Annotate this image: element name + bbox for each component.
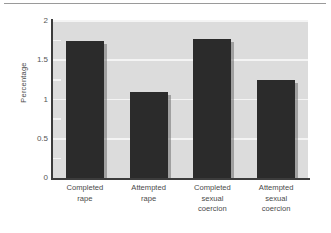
x-axis-label-line: rape xyxy=(117,194,181,205)
y-tick-label-0: 0 xyxy=(28,174,48,182)
minor-tick-1.25 xyxy=(53,79,61,80)
x-axis-label-line: Attempted xyxy=(244,183,308,194)
bar xyxy=(130,92,168,178)
bar xyxy=(257,80,295,178)
y-tick-label-2: 2 xyxy=(28,17,48,25)
x-axis-label-line: sexual xyxy=(181,194,245,205)
x-axis-label-line: Attempted xyxy=(117,183,181,194)
x-axis-label-line: coercion xyxy=(181,204,245,215)
x-axis-label: Attemptedsexualcoercion xyxy=(244,183,308,215)
x-axis-label: Completedsexualcoercion xyxy=(181,183,245,215)
x-axis-label: Attemptedrape xyxy=(117,183,181,204)
gridline-2 xyxy=(53,20,308,22)
minor-tick-0.25 xyxy=(53,158,61,159)
y-axis-tick-labels: 00.511.52 xyxy=(24,0,48,233)
x-axis-label-line: sexual xyxy=(244,194,308,205)
minor-tick-1.75 xyxy=(53,40,61,41)
x-axis-label-line: coercion xyxy=(244,204,308,215)
plot-area xyxy=(53,21,308,178)
x-axis-label-line: Completed xyxy=(181,183,245,194)
x-axis-line xyxy=(51,178,310,180)
bar xyxy=(193,39,231,178)
x-axis-label-line: rape xyxy=(53,194,117,205)
y-tick-label-0.5: 0.5 xyxy=(28,135,48,143)
x-axis-category-labels: CompletedrapeAttemptedrapeCompletedsexua… xyxy=(53,183,308,231)
bar xyxy=(66,41,104,178)
y-tick-label-1: 1 xyxy=(28,96,48,104)
x-axis-label-line: Completed xyxy=(53,183,117,194)
x-axis-label: Completedrape xyxy=(53,183,117,204)
figure: Percentage 00.511.52 CompletedrapeAttemp… xyxy=(0,0,331,233)
minor-tick-0.75 xyxy=(53,118,61,119)
y-tick-label-1.5: 1.5 xyxy=(28,56,48,64)
top-rule-divider xyxy=(4,3,326,4)
